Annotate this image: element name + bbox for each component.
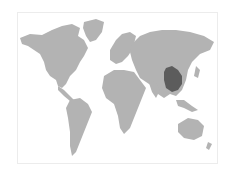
south-america (66, 98, 92, 156)
japan (194, 66, 200, 78)
greenland (83, 19, 104, 42)
africa (102, 70, 146, 134)
southeast-asia (176, 100, 198, 112)
australia (178, 118, 204, 140)
new-zealand (206, 142, 212, 150)
world-map (0, 0, 233, 174)
central-america (58, 86, 74, 101)
north-america (20, 24, 88, 88)
